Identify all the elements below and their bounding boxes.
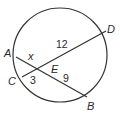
segment-label-eb: 9	[63, 72, 69, 84]
segment-label-ed: 12	[56, 38, 68, 50]
intersecting-chords-diagram: D A C E B x 12 3 9	[0, 0, 120, 117]
point-label-b: B	[87, 100, 94, 112]
point-label-d: D	[107, 23, 115, 35]
segment-label-ce: 3	[30, 74, 36, 86]
diagram-canvas: D A C E B x 12 3 9	[0, 0, 120, 117]
point-label-a: A	[3, 47, 11, 59]
point-label-c: C	[8, 75, 16, 87]
segment-label-ae: x	[27, 50, 34, 62]
point-label-e: E	[51, 63, 59, 75]
